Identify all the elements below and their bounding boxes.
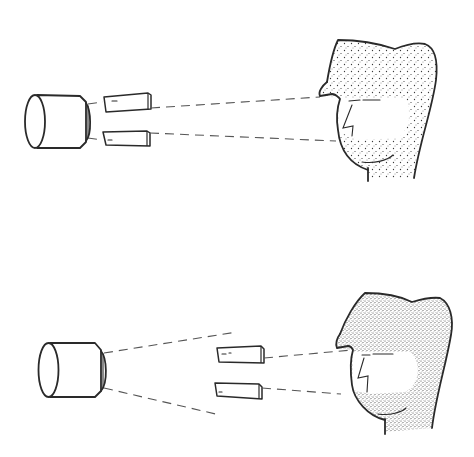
beam-lower-block-to-face bbox=[262, 388, 341, 394]
diverging-beam-lower bbox=[104, 388, 220, 415]
diagram-canvas bbox=[0, 0, 474, 457]
upper-prism-block bbox=[217, 346, 264, 363]
beam-camera-to-upper-block bbox=[88, 102, 103, 104]
stippled-head-dense bbox=[330, 288, 460, 438]
beam-camera-to-lower-block bbox=[88, 138, 102, 140]
top-panel bbox=[25, 36, 445, 186]
diagram-figure bbox=[0, 0, 474, 457]
camera-icon bbox=[25, 95, 90, 148]
lower-prism-block bbox=[215, 383, 262, 399]
beam-upper-block-to-eye bbox=[151, 97, 320, 108]
beam-upper-block-to-eye bbox=[264, 350, 352, 358]
camera-icon bbox=[39, 343, 106, 397]
upper-prism-block bbox=[104, 93, 151, 112]
beam-lower-block-to-face bbox=[150, 133, 336, 141]
lower-prism-block bbox=[103, 131, 150, 146]
bottom-panel bbox=[39, 288, 461, 438]
stippled-head-light bbox=[310, 36, 445, 186]
